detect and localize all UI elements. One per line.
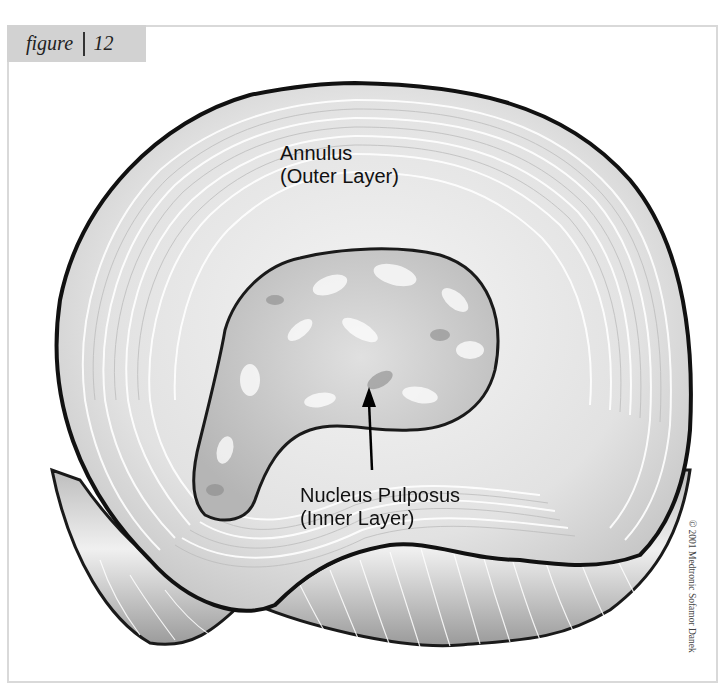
disc-illustration	[0, 0, 721, 693]
nucleus-label: Nucleus Pulposus (Inner Layer)	[300, 484, 460, 530]
annulus-label-line1: Annulus	[280, 142, 399, 165]
nucleus-label-line2: (Inner Layer)	[300, 507, 460, 530]
annulus-label-line2: (Outer Layer)	[280, 165, 399, 188]
annulus-label: Annulus (Outer Layer)	[280, 142, 399, 188]
nucleus-label-line1: Nucleus Pulposus	[300, 484, 460, 507]
copyright-credit: © 2001 Medtronic Sofamor Danek	[687, 520, 697, 653]
